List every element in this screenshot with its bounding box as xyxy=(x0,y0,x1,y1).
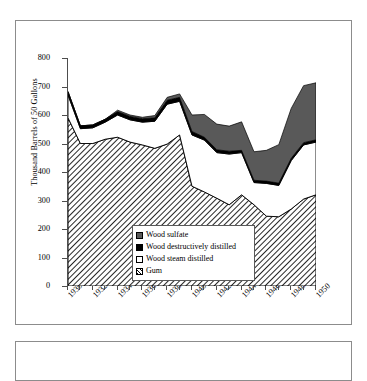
destructive-swatch-icon xyxy=(136,244,143,251)
gum-swatch-icon xyxy=(136,268,143,275)
x-tick-mark xyxy=(303,286,304,290)
legend-label: Gum xyxy=(146,265,162,277)
y-tick-label: 600 xyxy=(18,110,50,119)
x-tick-mark xyxy=(79,286,80,290)
legend-item-wood-destructively-distilled: Wood destructively distilled xyxy=(136,241,250,253)
x-tick-label: 1950 xyxy=(314,281,332,299)
legend-label: Wood destructively distilled xyxy=(146,241,236,253)
y-tick-label: 500 xyxy=(18,139,50,148)
x-tick-mark xyxy=(179,286,180,290)
y-tick-label: 700 xyxy=(18,82,50,91)
x-tick-mark xyxy=(203,286,204,290)
y-tick-label: 200 xyxy=(18,224,50,233)
next-figure-frame xyxy=(15,341,352,381)
chart-legend: Wood sulfate Wood destructively distille… xyxy=(132,225,255,281)
sulfate-swatch-icon xyxy=(136,232,143,239)
legend-label: Wood steam distilled xyxy=(146,253,213,265)
legend-label: Wood sulfate xyxy=(146,229,188,241)
x-tick-mark xyxy=(228,286,229,290)
steam-swatch-icon xyxy=(136,256,143,263)
legend-item-wood-steam-distilled: Wood steam distilled xyxy=(136,253,250,265)
x-tick-mark xyxy=(104,286,105,290)
y-tick-label: 400 xyxy=(18,167,50,176)
chart-plot-wrapper: Thousand Barrels of 50 Gallons 010020030… xyxy=(16,21,353,326)
x-tick-mark xyxy=(117,286,118,290)
legend-item-gum: Gum xyxy=(136,265,250,277)
y-tick-label: 100 xyxy=(18,253,50,262)
y-tick-label: 800 xyxy=(18,53,50,62)
y-tick-label: 300 xyxy=(18,196,50,205)
figure-frame: Thousand Barrels of 50 Gallons 010020030… xyxy=(15,20,352,325)
x-tick-mark xyxy=(253,286,254,290)
x-tick-mark xyxy=(129,286,130,290)
legend-item-wood-sulfate: Wood sulfate xyxy=(136,229,250,241)
x-tick-mark xyxy=(241,286,242,290)
plot-area: Wood sulfate Wood destructively distille… xyxy=(67,58,315,286)
y-tick-label: 0 xyxy=(18,281,50,290)
x-tick-mark xyxy=(278,286,279,290)
x-tick-mark xyxy=(154,286,155,290)
